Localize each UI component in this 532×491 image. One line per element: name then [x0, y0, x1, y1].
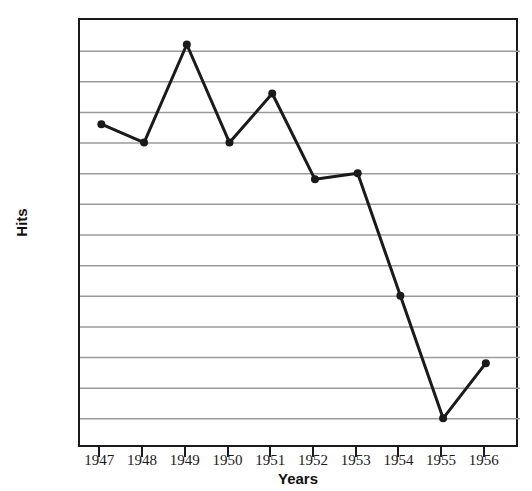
- data-point: [140, 139, 148, 147]
- data-point: [268, 90, 276, 98]
- plot-area: [78, 18, 518, 447]
- chart-title: [78, 0, 518, 5]
- data-point: [482, 359, 490, 367]
- series-line: [101, 45, 485, 419]
- data-point: [226, 139, 234, 147]
- data-point: [396, 292, 404, 300]
- gridlines: [80, 51, 520, 419]
- data-point: [311, 175, 319, 183]
- series-markers: [97, 41, 489, 423]
- data-point: [97, 120, 105, 128]
- y-axis-title: Hits: [13, 193, 30, 253]
- data-point: [183, 41, 191, 49]
- data-point: [354, 169, 362, 177]
- x-axis-title: Years: [78, 470, 518, 487]
- x-axis-tick-label: 1956: [454, 452, 514, 469]
- line-chart: 2102001901801701601501401301201101009080…: [0, 0, 532, 491]
- plot-canvas: [80, 20, 520, 449]
- data-point: [439, 414, 447, 422]
